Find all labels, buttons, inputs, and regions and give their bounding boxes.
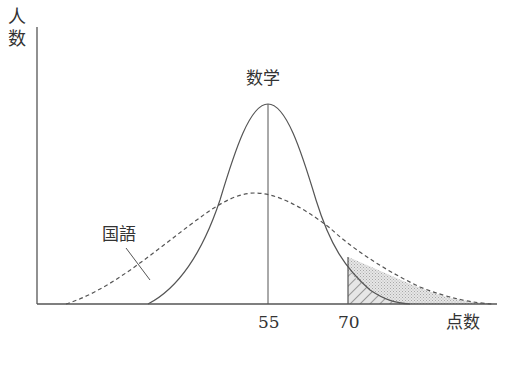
chart-canvas bbox=[0, 0, 507, 379]
math-label: 数学 bbox=[246, 70, 280, 87]
y-axis-label: 人数 bbox=[7, 6, 27, 50]
japanese-leader-line bbox=[126, 248, 150, 280]
japanese-curve bbox=[66, 193, 492, 304]
japanese-label: 国語 bbox=[102, 226, 136, 243]
x-tick-55: 55 bbox=[258, 314, 280, 331]
x-axis-label: 点数 bbox=[446, 314, 480, 331]
x-tick-70: 70 bbox=[338, 314, 360, 331]
